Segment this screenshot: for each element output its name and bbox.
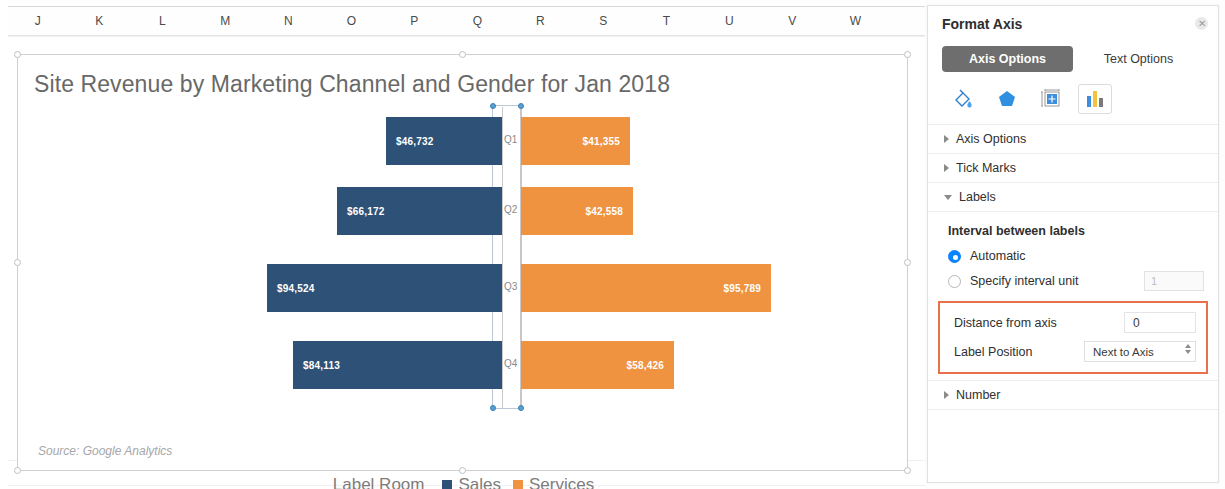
chart-category-row: $84,113 Q4 $58,426 bbox=[28, 331, 899, 399]
chart-resize-handle-bottom-center[interactable] bbox=[459, 467, 466, 474]
category-axis-label-q1: Q1 bbox=[504, 134, 517, 145]
column-header-o[interactable]: O bbox=[320, 14, 383, 28]
column-header-q[interactable]: Q bbox=[446, 14, 509, 28]
category-axis-label-q2: Q2 bbox=[504, 204, 517, 215]
bar-sales-q2[interactable]: $66,172 bbox=[337, 187, 502, 235]
chart-title[interactable]: Site Revenue by Marketing Channel and Ge… bbox=[34, 71, 670, 98]
column-header-v[interactable]: V bbox=[761, 14, 824, 28]
axis-handle-bottom-left[interactable] bbox=[490, 405, 496, 411]
excel-window: J K L M N O P Q R S T U V W bbox=[0, 0, 1225, 489]
legend-swatch-icon bbox=[513, 480, 523, 489]
radio-specify-interval-icon[interactable] bbox=[948, 275, 961, 288]
bar-value-label: $46,732 bbox=[386, 136, 444, 147]
label-position-select[interactable]: Next to Axis bbox=[1084, 341, 1196, 362]
section-label: Number bbox=[956, 388, 1000, 402]
axis-handle-bottom-right[interactable] bbox=[518, 405, 524, 411]
section-axis-options[interactable]: Axis Options bbox=[928, 125, 1218, 154]
chevron-right-icon bbox=[944, 164, 949, 172]
stepper-icon[interactable] bbox=[1185, 344, 1191, 354]
chevron-right-icon bbox=[944, 135, 949, 143]
chart-category-row: $66,172 Q2 $42,558 bbox=[28, 177, 899, 245]
column-header-t[interactable]: T bbox=[635, 14, 698, 28]
legend-swatch-icon bbox=[442, 480, 452, 489]
bar-value-label: $42,558 bbox=[575, 206, 633, 217]
bar-sales-q1[interactable]: $46,732 bbox=[386, 117, 502, 165]
chart-resize-handle-top-left[interactable] bbox=[14, 51, 21, 58]
axis-title[interactable]: Label Room bbox=[333, 475, 425, 489]
radio-automatic-row[interactable]: Automatic bbox=[928, 245, 1218, 267]
chevron-right-icon bbox=[944, 391, 949, 399]
section-labels[interactable]: Labels bbox=[928, 183, 1218, 212]
column-header-j[interactable]: J bbox=[8, 14, 68, 28]
column-header-m[interactable]: M bbox=[194, 14, 257, 28]
bar-value-label: $94,524 bbox=[267, 283, 325, 294]
axis-options-chart-icon[interactable] bbox=[1078, 84, 1112, 114]
chart-object[interactable]: Site Revenue by Marketing Channel and Ge… bbox=[17, 54, 908, 471]
column-header-p[interactable]: P bbox=[383, 14, 446, 28]
category-axis-label-q3: Q3 bbox=[504, 281, 517, 292]
bar-value-label: $41,355 bbox=[572, 136, 630, 147]
chart-resize-handle-top-center[interactable] bbox=[459, 51, 466, 58]
panel-header: Format Axis ✕ bbox=[928, 6, 1218, 40]
fill-and-line-icon[interactable] bbox=[946, 84, 980, 114]
spreadsheet-area: J K L M N O P Q R S T U V W bbox=[0, 0, 925, 489]
bar-value-label: $66,172 bbox=[337, 206, 395, 217]
column-header-n[interactable]: N bbox=[257, 14, 320, 28]
column-header-row: J K L M N O P Q R S T U V W bbox=[8, 6, 925, 36]
bar-services-q4[interactable]: $58,426 bbox=[521, 341, 674, 389]
section-label: Labels bbox=[959, 190, 996, 204]
specify-interval-input[interactable]: 1 bbox=[1144, 271, 1204, 291]
legend-label: Services bbox=[529, 475, 594, 489]
column-header-k[interactable]: K bbox=[68, 14, 131, 28]
panel-title: Format Axis bbox=[942, 16, 1022, 32]
bar-services-q2[interactable]: $42,558 bbox=[521, 187, 633, 235]
chart-plot-area[interactable]: $46,732 Q1 $41,355 $66,172 Q2 $42,558 bbox=[28, 107, 899, 417]
column-header-w[interactable]: W bbox=[824, 14, 887, 28]
section-number[interactable]: Number bbox=[928, 380, 1218, 410]
panel-icon-row bbox=[928, 72, 1218, 125]
radio-automatic-icon[interactable] bbox=[948, 250, 961, 263]
radio-specify-interval-row[interactable]: Specify interval unit 1 bbox=[928, 267, 1218, 295]
bar-value-label: $84,113 bbox=[293, 360, 350, 371]
bar-sales-q3[interactable]: $94,524 bbox=[267, 264, 502, 312]
distance-from-axis-row: Distance from axis 0 bbox=[944, 308, 1202, 337]
interval-between-labels-heading: Interval between labels bbox=[928, 212, 1218, 245]
bar-services-q1[interactable]: $41,355 bbox=[521, 117, 630, 165]
label-position-value: Next to Axis bbox=[1093, 346, 1154, 358]
chart-resize-handle-bottom-left[interactable] bbox=[14, 467, 21, 474]
category-axis-label-q4: Q4 bbox=[504, 358, 517, 369]
effects-icon[interactable] bbox=[990, 84, 1024, 114]
tab-text-options[interactable]: Text Options bbox=[1073, 46, 1204, 72]
chevron-down-icon bbox=[944, 195, 952, 200]
column-header-s[interactable]: S bbox=[572, 14, 635, 28]
chart-legend[interactable]: Label Room Sales Services bbox=[28, 475, 899, 489]
bar-value-label: $95,789 bbox=[713, 283, 771, 294]
labels-highlight-box: Distance from axis 0 Label Position Next… bbox=[938, 301, 1208, 374]
section-label: Tick Marks bbox=[956, 161, 1016, 175]
legend-entry-sales[interactable]: Sales bbox=[442, 475, 501, 489]
bar-sales-q4[interactable]: $84,113 bbox=[293, 341, 502, 389]
radio-specify-interval-label: Specify interval unit bbox=[970, 274, 1078, 288]
tab-axis-options[interactable]: Axis Options bbox=[942, 46, 1073, 72]
distance-from-axis-input[interactable]: 0 bbox=[1124, 312, 1196, 333]
chart-source-note: Source: Google Analytics bbox=[38, 444, 172, 458]
bar-value-label: $58,426 bbox=[616, 360, 674, 371]
column-header-l[interactable]: L bbox=[131, 14, 194, 28]
bar-services-q3[interactable]: $95,789 bbox=[521, 264, 771, 312]
label-position-label: Label Position bbox=[954, 345, 1084, 359]
section-label: Axis Options bbox=[956, 132, 1026, 146]
column-header-u[interactable]: U bbox=[698, 14, 761, 28]
chart-resize-handle-middle-right[interactable] bbox=[904, 259, 911, 266]
legend-entry-services[interactable]: Services bbox=[513, 475, 594, 489]
radio-automatic-label: Automatic bbox=[970, 249, 1026, 263]
chart-resize-handle-top-right[interactable] bbox=[904, 51, 911, 58]
format-axis-panel: Format Axis ✕ Axis Options Text Options bbox=[927, 5, 1219, 483]
size-and-properties-icon[interactable] bbox=[1034, 84, 1068, 114]
panel-tabs: Axis Options Text Options bbox=[928, 40, 1218, 72]
column-header-r[interactable]: R bbox=[509, 14, 572, 28]
legend-label: Sales bbox=[458, 475, 501, 489]
section-tick-marks[interactable]: Tick Marks bbox=[928, 154, 1218, 183]
close-icon[interactable]: ✕ bbox=[1195, 17, 1208, 30]
chart-resize-handle-middle-left[interactable] bbox=[14, 259, 21, 266]
chart-resize-handle-bottom-right[interactable] bbox=[904, 467, 911, 474]
